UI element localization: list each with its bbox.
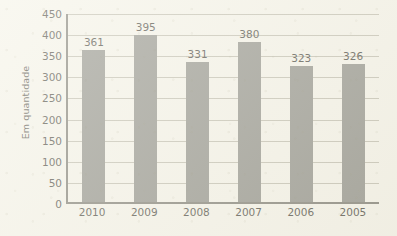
bar-value-label: 395: [136, 21, 156, 33]
plot-area: 361395331380323326: [66, 14, 379, 204]
x-axis-tick-labels: 201020092008200720062005: [66, 206, 379, 218]
bar[interactable]: [342, 64, 365, 202]
y-axis-tick: 250: [42, 92, 62, 104]
bar-slot: 326: [327, 14, 379, 202]
bar[interactable]: [186, 62, 209, 202]
bar[interactable]: [82, 50, 105, 202]
y-axis-tick: 100: [42, 156, 62, 168]
y-axis-tick: 200: [42, 114, 62, 126]
y-axis-tick: 300: [42, 71, 62, 83]
y-axis-tick: 50: [49, 177, 62, 189]
bar-slot: 380: [223, 14, 275, 202]
y-axis-tick: 400: [42, 29, 62, 41]
bar[interactable]: [290, 66, 313, 202]
y-axis-tick: 0: [55, 198, 62, 210]
bar-value-label: 331: [188, 48, 208, 60]
bar-chart: Em quantidade 45040035030025020015010050…: [0, 0, 397, 236]
bar-value-label: 323: [291, 52, 311, 64]
bar[interactable]: [238, 42, 261, 202]
x-axis-tick: 2006: [275, 206, 327, 218]
bars-layer: 361395331380323326: [68, 14, 379, 202]
bar-slot: 323: [275, 14, 327, 202]
bar-value-label: 361: [84, 36, 104, 48]
y-axis-tick: 350: [42, 50, 62, 62]
x-axis-tick: 2005: [327, 206, 379, 218]
bar-slot: 361: [68, 14, 120, 202]
y-axis-tick: 150: [42, 135, 62, 147]
x-axis-tick: 2008: [170, 206, 222, 218]
x-axis-tick: 2007: [223, 206, 275, 218]
bar-slot: 331: [172, 14, 224, 202]
x-axis-tick: 2009: [118, 206, 170, 218]
bar-value-label: 326: [343, 50, 363, 62]
x-axis-tick: 2010: [66, 206, 118, 218]
bar-slot: 395: [120, 14, 172, 202]
y-axis-tick-labels: 450400350300250200150100500: [30, 14, 62, 204]
y-axis-tick: 450: [42, 8, 62, 20]
bar-value-label: 380: [239, 28, 259, 40]
bar[interactable]: [134, 35, 157, 202]
